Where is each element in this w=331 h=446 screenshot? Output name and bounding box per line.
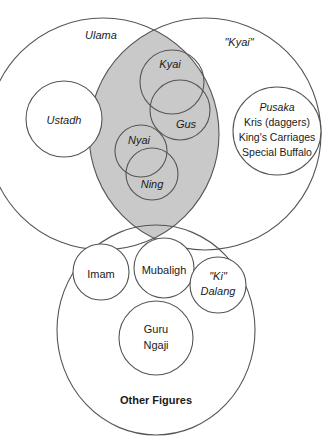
pusaka-label-line-3: King's Carriages	[239, 131, 316, 143]
member-circle-ning[interactable]	[126, 148, 178, 200]
venn-diagram-canvas: Ulama "Kyai" Ustadh Pusaka Kris (daggers…	[0, 0, 331, 446]
guru-ngaji-label-line-2: Ngaji	[143, 339, 168, 351]
member-label-ustadh: Ustadh	[47, 114, 82, 126]
pusaka-label-line-1: Pusaka	[259, 101, 294, 113]
pusaka-label-line-2: Kris (daggers)	[244, 116, 310, 128]
venn-diagram-figure: Ulama "Kyai" Ustadh Pusaka Kris (daggers…	[0, 0, 331, 446]
set-label-ulama: Ulama	[85, 29, 117, 41]
member-label-gus: Gus	[176, 118, 197, 130]
member-label-ning: Ning	[141, 178, 165, 190]
member-label-nyai: Nyai	[128, 134, 151, 146]
ki-dalang-label-line-1: "Ki"	[209, 270, 228, 282]
member-circle-gus[interactable]	[150, 80, 210, 140]
member-label-mubaligh: Mubaligh	[142, 264, 187, 276]
guru-ngaji-label-line-1: Guru	[144, 323, 168, 335]
set-label-kyai: "Kyai"	[224, 36, 254, 48]
pusaka-label-line-4: Special Buffalo	[242, 146, 312, 158]
member-label-imam: Imam	[87, 268, 115, 280]
set-label-other-figures: Other Figures	[120, 394, 192, 406]
member-label-kyai: Kyai	[159, 58, 181, 70]
ki-dalang-label-line-2: Dalang	[201, 285, 237, 297]
